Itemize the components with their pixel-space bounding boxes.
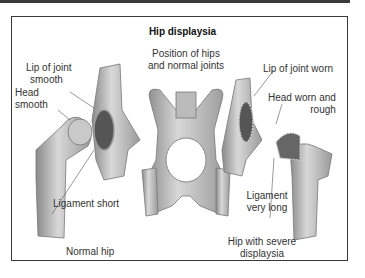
label-line: Lip of joint	[26, 62, 72, 74]
label-lip-of-joint-worn: Lip of joint worn	[263, 63, 333, 75]
label-head-smooth: Head smooth	[15, 87, 48, 111]
label-line: Position of hips	[138, 48, 234, 60]
label-line: and normal joints	[138, 60, 234, 72]
label-normal-hip: Normal hip	[66, 246, 114, 258]
dysplastic-socket-illustration	[222, 78, 262, 176]
normal-socket-illustration	[92, 64, 140, 180]
dysplastic-femur-illustration	[276, 133, 332, 240]
label-position-of-hips: Position of hips and normal joints	[138, 48, 234, 72]
label-line: smooth	[26, 74, 72, 86]
label-ligament-short: Ligament short	[53, 198, 119, 210]
label-line: smooth	[15, 99, 48, 111]
label-line: Head	[15, 87, 48, 99]
label-line: Head worn and	[268, 92, 336, 104]
label-line: Ligament	[242, 190, 292, 202]
label-hip-with-severe-displaysia: Hip with severe displaysia	[222, 236, 302, 260]
label-lip-of-joint-smooth: Lip of joint smooth	[26, 62, 72, 86]
label-line: rough	[268, 104, 336, 116]
label-ligament-very-long: Ligament very long	[242, 190, 292, 214]
label-line: very long	[242, 202, 292, 214]
pelvis-illustration	[142, 89, 230, 216]
normal-femur-illustration	[36, 117, 92, 238]
anatomy-illustrations	[0, 0, 365, 278]
label-line: Hip with severe	[222, 236, 302, 248]
label-head-worn-and-rough: Head worn and rough	[268, 92, 336, 116]
label-line: displaysia	[222, 248, 302, 260]
